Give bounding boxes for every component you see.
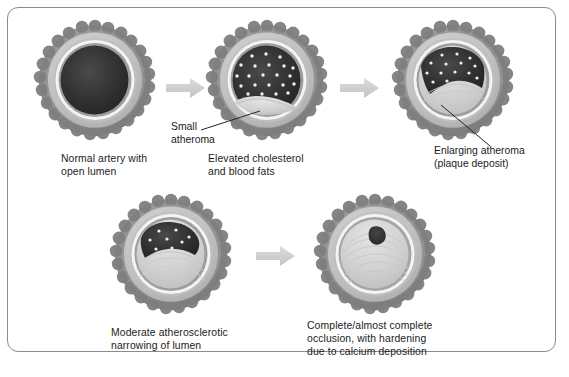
caption-stage-1: Normal artery with open lumen (61, 152, 191, 178)
artery-cross-section-stage-4 (112, 196, 230, 314)
artery-cross-section-stage-5 (316, 196, 434, 314)
artery-cross-section-stage-1 (36, 22, 154, 140)
progression-arrow-2 (340, 76, 380, 100)
atherosclerosis-figure: Small atheroma (0, 0, 569, 377)
caption-stage-2: Elevated cholesterol and blood fats (208, 152, 343, 178)
lumen-open (61, 46, 129, 115)
enlarging-atheroma-leader-line (440, 104, 492, 148)
caption-stage-4: Moderate atherosclerotic narrowing of lu… (111, 326, 276, 352)
progression-arrow-1 (166, 76, 206, 100)
caption-stage-5: Complete/almost complete occlusion, with… (307, 319, 482, 359)
callout-enlarging-atheroma: Enlarging atheroma (plaque deposit) (434, 144, 554, 170)
progression-arrow-3 (256, 244, 296, 268)
callout-small-atheroma: Small atheroma (171, 120, 231, 146)
